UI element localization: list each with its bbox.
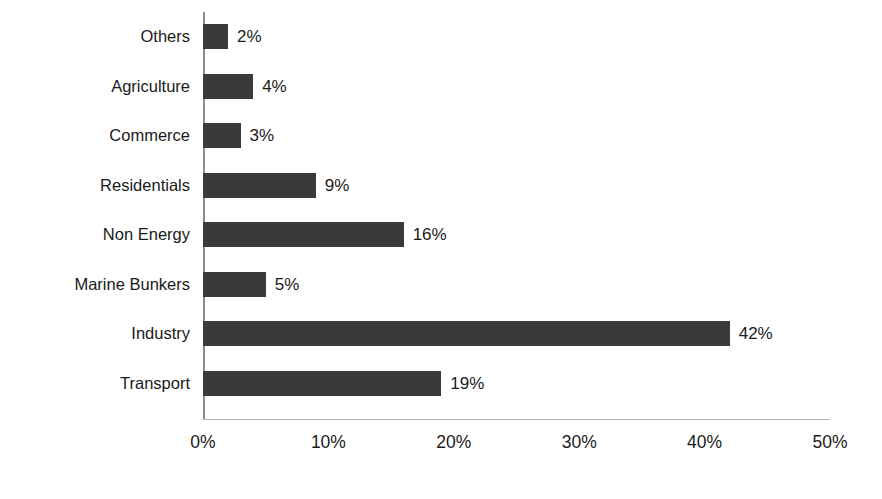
category-axis-label: Agriculture: [111, 62, 190, 112]
category-axis-label: Industry: [131, 309, 190, 359]
category-axis-label: Commerce: [109, 111, 190, 161]
value-axis-tick-label: 20%: [436, 432, 471, 453]
bar-row: 4%: [203, 62, 830, 112]
category-axis-label: Residentials: [100, 161, 190, 211]
bar: [203, 74, 253, 99]
bar: [203, 272, 266, 297]
bar-row: 9%: [203, 161, 830, 211]
category-axis-labels: OthersAgricultureCommerceResidentialsNon…: [0, 12, 190, 420]
category-axis-label: Transport: [120, 359, 190, 409]
bar-value-label: 4%: [253, 74, 287, 99]
bar-row: 19%: [203, 359, 830, 409]
value-axis-tick-label: 50%: [812, 432, 847, 453]
category-axis-label: Marine Bunkers: [74, 260, 190, 310]
value-axis-tick-label: 10%: [311, 432, 346, 453]
bar: [203, 24, 228, 49]
bar: [203, 321, 730, 346]
bar-value-label: 16%: [404, 222, 447, 247]
bar: [203, 123, 241, 148]
bar-value-label: 9%: [316, 173, 350, 198]
bar-value-label: 3%: [241, 123, 275, 148]
bar-value-label: 42%: [730, 321, 773, 346]
bar-value-label: 2%: [228, 24, 262, 49]
bar-value-label: 19%: [441, 371, 484, 396]
bar-chart: OthersAgricultureCommerceResidentialsNon…: [0, 0, 882, 499]
value-axis-tick-label: 30%: [562, 432, 597, 453]
bar-row: 5%: [203, 260, 830, 310]
bar-value-label: 5%: [266, 272, 300, 297]
value-axis-tick-label: 0%: [190, 432, 215, 453]
bar-row: 2%: [203, 12, 830, 62]
category-axis-baseline: [203, 419, 830, 420]
value-axis-tick-labels: 0%10%20%30%40%50%: [203, 432, 830, 466]
category-axis-label: Non Energy: [103, 210, 190, 260]
bar: [203, 222, 404, 247]
bar-row: 16%: [203, 210, 830, 260]
category-axis-label: Others: [140, 12, 190, 62]
bar-row: 42%: [203, 309, 830, 359]
bar: [203, 173, 316, 198]
bar-row: 3%: [203, 111, 830, 161]
value-axis-tick-label: 40%: [687, 432, 722, 453]
bar: [203, 371, 441, 396]
plot-area: 2%4%3%9%16%5%42%19%: [203, 12, 830, 420]
